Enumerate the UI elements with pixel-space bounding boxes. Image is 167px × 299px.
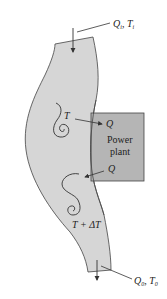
plant-label-line2: plant bbox=[110, 146, 130, 157]
cooling-water-diagram: Qi, Ti T Q Power plant Q T + ΔT Q0, T0 bbox=[0, 0, 167, 299]
heat-out-label: Q bbox=[106, 118, 114, 129]
heat-in-label: Q bbox=[108, 163, 116, 174]
inlet-leader bbox=[77, 23, 110, 32]
downstream-temp-label: T + ΔT bbox=[72, 219, 102, 230]
outlet-leader bbox=[101, 266, 132, 279]
plant-label-line1: Power bbox=[107, 134, 133, 145]
outlet-label: Q0, T0 bbox=[134, 275, 158, 287]
inlet-label: Qi, Ti bbox=[113, 18, 134, 30]
